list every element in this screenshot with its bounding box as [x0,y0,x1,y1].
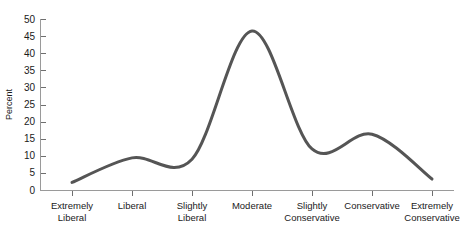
x-axis-ticks [73,191,433,197]
x-tick-label: Liberal [178,212,207,223]
y-tick-label: 45 [24,31,36,42]
x-tick-label: Extremely [51,200,93,211]
x-tick-label: Liberal [118,200,147,211]
y-tick-label: 15 [24,133,36,144]
x-axis-labels: ExtremelyLiberalLiberalSlightlyLiberalMo… [51,200,460,223]
chart-container: Percent 05101520253035404550 ExtremelyLi… [0,0,463,228]
x-tick-label: Slightly [297,200,328,211]
x-tick-label: Conservative [404,212,459,223]
y-tick-label: 30 [24,82,36,93]
y-tick-label: 40 [24,48,36,59]
x-tick-label: Moderate [232,200,272,211]
y-tick-label: 5 [29,167,35,178]
data-series-line [72,31,432,183]
y-tick-label: 10 [24,150,36,161]
y-tick-label: 25 [24,99,36,110]
x-tick-label: Extremely [411,200,453,211]
y-axis-title: Percent [4,88,14,120]
y-axis-ticks: 05101520253035404550 [24,14,46,196]
x-tick-label: Conservative [284,212,339,223]
y-tick-label: 20 [24,116,36,127]
y-axis-label: Percent [4,88,14,120]
x-tick-label: Conservative [344,200,399,211]
line-chart: Percent 05101520253035404550 ExtremelyLi… [0,0,463,228]
y-tick-label: 35 [24,65,36,76]
axis-lines [41,19,455,191]
y-tick-label: 0 [29,185,35,196]
x-tick-label: Liberal [58,212,87,223]
y-tick-label: 50 [24,14,36,25]
x-tick-label: Slightly [177,200,208,211]
